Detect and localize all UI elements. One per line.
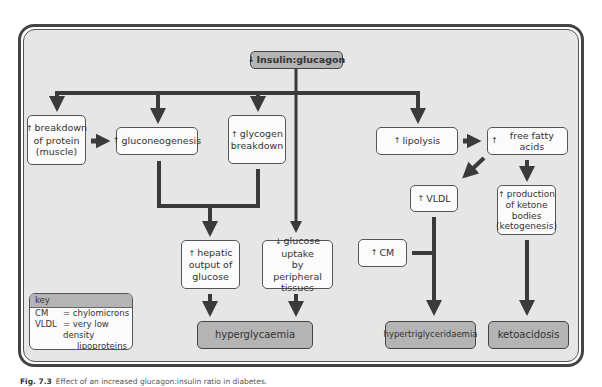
caption-text: Effect of an increased glucagon:insulin …	[56, 377, 267, 386]
key-abbr: CM	[35, 308, 63, 319]
glycogen-breakdown-box: ↑glycogen breakdown	[228, 115, 286, 164]
gluconeogenesis-box: ↑ gluconeogenesis	[116, 127, 198, 155]
key-def: = chylomicrons	[63, 308, 132, 319]
figure-label: Fig. 7.3	[20, 377, 52, 386]
ketone-production-label: production of ketone bodies (ketogenesis…	[496, 189, 557, 232]
hyperglycaemia-outcome: hyperglycaemia	[197, 321, 313, 349]
ketoacidosis-label: ketoacidosis	[498, 329, 560, 341]
key-entry-cm: CM = chylomicrons	[30, 308, 132, 319]
protein-breakdown-label: breakdown of protein (muscle)	[34, 122, 88, 157]
protein-breakdown-box: ↑breakdown of protein (muscle)	[27, 115, 86, 165]
down-arrow-icon: ↓	[275, 237, 282, 246]
hypertriglyceridaemia-outcome: hypertriglyceridaemia	[385, 321, 476, 349]
key-def: = very low density	[63, 319, 132, 341]
vldl-box: ↑ VLDL	[410, 185, 458, 212]
lipolysis-label: lipolysis	[402, 135, 440, 147]
key-legend: key CM = chylomicrons VLDL = very low de…	[29, 293, 133, 350]
root-label: Insulin:glucagon	[256, 54, 345, 66]
insulin-glucagon-ratio-box: ↓ Insulin:glucagon	[250, 51, 343, 69]
up-arrow-icon: ↑	[188, 249, 195, 258]
up-arrow-icon: ↑	[498, 190, 505, 199]
up-arrow-icon: ↑	[113, 135, 120, 147]
key-entry-vldl: VLDL = very low density	[30, 319, 132, 341]
key-def-continuation: lipoproteins	[30, 341, 132, 350]
key-title: key	[30, 294, 132, 308]
key-abbr: VLDL	[35, 319, 63, 341]
glucose-uptake-box: ↓glucose uptake by peripheral tissues	[262, 240, 333, 289]
gluconeogenesis-label: gluconeogenesis	[122, 135, 202, 147]
lipolysis-box: ↑ lipolysis	[376, 127, 458, 155]
hepatic-output-box: ↑hepatic output of glucose	[181, 240, 240, 289]
free-fatty-acids-label: free fatty acids	[500, 130, 564, 153]
cm-box: ↑ CM	[358, 239, 407, 267]
hepatic-output-label: hepatic output of glucose	[189, 247, 233, 282]
cm-label: CM	[379, 247, 394, 259]
ketoacidosis-outcome: ketoacidosis	[488, 321, 569, 349]
up-arrow-icon: ↑	[394, 135, 401, 147]
up-arrow-icon: ↑	[231, 130, 238, 139]
up-arrow-icon: ↑	[371, 247, 378, 259]
hypertriglyceridaemia-label: hypertriglyceridaemia	[384, 329, 478, 341]
down-arrow-icon: ↓	[248, 54, 255, 66]
figure-caption: Fig. 7.3Effect of an increased glucagon:…	[20, 377, 267, 386]
vldl-label: VLDL	[426, 193, 450, 205]
hyperglycaemia-label: hyperglycaemia	[215, 329, 295, 341]
up-arrow-icon: ↑	[491, 135, 498, 147]
up-arrow-icon: ↑	[26, 124, 33, 133]
free-fatty-acids-box: ↑ free fatty acids	[487, 127, 568, 155]
glycogen-breakdown-label: glycogen breakdown	[231, 128, 284, 152]
ketone-production-box: ↑production of ketone bodies (ketogenesi…	[497, 185, 556, 235]
up-arrow-icon: ↑	[417, 193, 424, 205]
